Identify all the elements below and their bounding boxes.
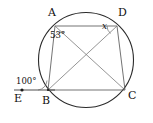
vertex-dot-B	[47, 89, 49, 91]
angle-label-53: 53°	[50, 31, 65, 40]
vertex-label-B: B	[42, 95, 50, 106]
angle-label-x: x	[102, 22, 107, 31]
vertex-label-E: E	[14, 93, 22, 104]
geometry-figure: A D B C E 53° x 100°	[0, 0, 153, 123]
vertex-label-C: C	[128, 90, 136, 101]
angle-label-100: 100°	[16, 77, 36, 86]
circumcircle	[39, 13, 134, 108]
diagonal-AC	[55, 26, 125, 90]
angle-arc-B	[38, 81, 47, 91]
geometry-canvas	[0, 0, 153, 123]
vertex-label-D: D	[118, 7, 127, 18]
vertex-label-A: A	[48, 7, 56, 18]
segment-DC	[117, 26, 125, 90]
